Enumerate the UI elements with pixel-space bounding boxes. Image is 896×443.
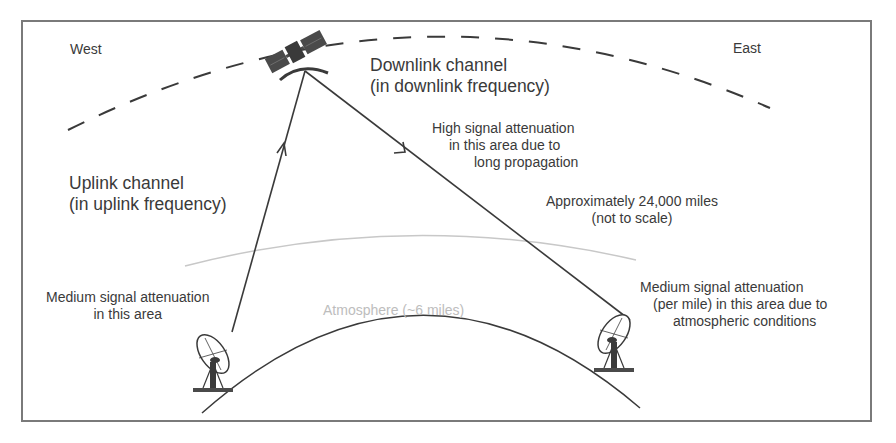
note-line: Approximately 24,000 miles <box>546 193 718 210</box>
uplink-path <box>232 71 305 332</box>
medium-attenuation-east-note: Medium signal attenuation (per mile) in … <box>640 279 827 329</box>
uplink-channel-label: Uplink channel (in uplink frequency) <box>69 173 227 215</box>
earth-surface-arc <box>202 315 640 413</box>
satellite-icon <box>264 29 327 74</box>
note-line: atmospheric conditions <box>640 313 827 330</box>
high-attenuation-note: High signal attenuation in this area due… <box>432 120 578 170</box>
atmosphere-arc <box>185 235 636 266</box>
note-line: Medium signal attenuation <box>640 279 827 296</box>
distance-note: Approximately 24,000 miles (not to scale… <box>546 193 718 227</box>
uplink-title: Uplink channel <box>69 173 227 194</box>
note-line: in this area due to <box>432 137 578 154</box>
ground-station-west-icon <box>191 329 236 392</box>
note-line: (per mile) in this area due to <box>640 296 827 313</box>
note-line: Medium signal attenuation <box>46 289 209 306</box>
downlink-title: Downlink channel <box>370 55 550 76</box>
west-label: West <box>70 41 102 58</box>
downlink-subtitle: (in downlink frequency) <box>370 76 550 97</box>
note-line: (not to scale) <box>546 210 718 227</box>
uplink-subtitle: (in uplink frequency) <box>69 194 227 215</box>
downlink-channel-label: Downlink channel (in downlink frequency) <box>370 55 550 97</box>
east-label: East <box>733 40 761 57</box>
note-line: long propagation <box>432 154 578 171</box>
atmosphere-label: Atmosphere (~6 miles) <box>323 302 464 319</box>
note-line: in this area <box>46 306 209 323</box>
medium-attenuation-west-note: Medium signal attenuation in this area <box>46 289 209 323</box>
ground-station-east-icon <box>592 309 637 372</box>
note-line: High signal attenuation <box>432 120 578 137</box>
